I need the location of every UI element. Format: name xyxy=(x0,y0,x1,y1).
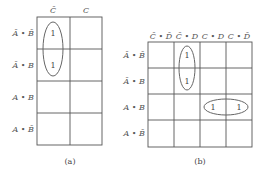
cell-value: 1 xyxy=(50,61,55,70)
cell-value: 1 xyxy=(210,103,215,112)
cell-value: 1 xyxy=(184,51,189,60)
row-label: Ā • B xyxy=(123,77,146,86)
column-label: C • D̄ xyxy=(228,32,251,41)
column-label: C̄ • D xyxy=(176,32,199,41)
row-label: A • B̄ xyxy=(123,129,146,138)
grid-a xyxy=(37,17,102,145)
column-label: C • D xyxy=(202,32,225,41)
column-label: C̄ xyxy=(50,6,56,15)
row-label: A • B xyxy=(12,93,35,102)
column-label: C̄ • D̄ xyxy=(150,32,173,41)
karnaugh-map-a: C̄ C Ā • B̄ Ā • B A • B A • B̄ 1 1 (a) xyxy=(12,6,102,166)
row-label: A • B xyxy=(123,103,146,112)
row-label: A • B̄ xyxy=(12,125,35,134)
grid-b xyxy=(148,42,252,147)
cell-value: 1 xyxy=(184,77,189,86)
caption: (a) xyxy=(64,157,75,166)
cell-value: 1 xyxy=(236,103,241,112)
row-label: Ā • B xyxy=(12,61,35,70)
karnaugh-maps: C̄ C Ā • B̄ Ā • B A • B A • B̄ 1 1 (a) C… xyxy=(0,0,262,176)
row-label: Ā • B̄ xyxy=(123,51,146,60)
row-label: Ā • B̄ xyxy=(12,29,35,38)
karnaugh-map-b: C̄ • D̄ C̄ • D C • D C • D̄ Ā • B̄ Ā • B… xyxy=(123,32,252,166)
cell-value: 1 xyxy=(50,29,55,38)
column-label: C xyxy=(83,6,89,15)
caption: (b) xyxy=(194,157,205,166)
